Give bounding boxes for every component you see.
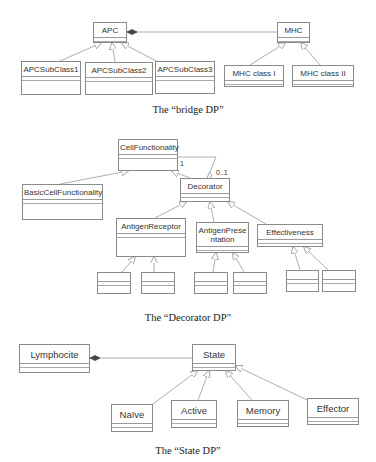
class-unnamed-1 <box>97 272 131 294</box>
class-name: APCSubClass1 <box>22 62 80 77</box>
class-name: State <box>193 345 235 364</box>
class-mhc-class-2: MHC class II <box>292 65 354 87</box>
class-antigen-presentation: AntigenPrese ntation <box>196 222 249 253</box>
uml-figure: APC MHC APCSubClass1 APCSubClass2 APCSub… <box>0 0 376 462</box>
class-name: Active <box>172 401 216 420</box>
caption-bridge: The “bridge DP” <box>0 104 376 115</box>
class-name: Naïve <box>112 405 152 424</box>
class-state: State <box>192 344 236 371</box>
class-apc-subclass-2: APCSubClass2 <box>85 62 153 95</box>
class-unnamed-2 <box>141 272 175 294</box>
class-effectiveness: Effectiveness <box>257 224 323 247</box>
class-name: Lymphocite <box>20 345 89 364</box>
class-name: Effectiveness <box>258 225 322 240</box>
class-mhc-class-1: MHC class I <box>224 65 284 87</box>
class-name: Memory <box>238 401 288 420</box>
class-name: AntigenReceptor <box>117 219 185 234</box>
multiplicity-decorator-end: 0..1 <box>216 169 228 176</box>
class-active: Active <box>171 400 217 428</box>
class-unnamed-3 <box>194 272 228 294</box>
class-mhc: MHC <box>277 22 310 43</box>
class-name: AntigenPrese ntation <box>197 223 248 247</box>
class-naive: Naïve <box>111 404 153 432</box>
class-decorator: Decorator <box>180 178 230 202</box>
caption-state: The “State DP” <box>0 445 376 456</box>
class-apc-subclass-3: APCSubClass3 <box>155 61 215 94</box>
class-apc-subclass-1: APCSubClass1 <box>21 61 81 95</box>
class-memory: Memory <box>237 400 289 427</box>
caption-decorator: The “Decorator DP” <box>0 312 376 323</box>
multiplicity-cell-end: 1 <box>180 160 184 167</box>
class-unnamed-4 <box>233 272 267 294</box>
class-effector: Effector <box>307 398 359 425</box>
class-apc: APC <box>93 22 127 43</box>
class-name: CellFunctionality <box>119 140 177 155</box>
class-name: BasicCellFunctionality <box>23 185 102 200</box>
class-name: APCSubClass3 <box>156 62 214 77</box>
class-name: APC <box>94 23 126 38</box>
class-name: MHC class I <box>225 66 283 81</box>
class-name: MHC class II <box>293 66 353 81</box>
class-name: Decorator <box>181 179 229 194</box>
class-unnamed-5 <box>286 270 319 292</box>
class-cell-functionality: CellFunctionality <box>118 139 178 171</box>
class-unnamed-6 <box>322 270 356 292</box>
class-antigen-receptor: AntigenReceptor <box>116 218 186 257</box>
class-lymphocite: Lymphocite <box>19 344 90 373</box>
class-name: Effector <box>308 399 358 418</box>
class-name: MHC <box>278 23 309 38</box>
class-name: APCSubClass2 <box>86 63 152 78</box>
class-basic-cell-functionality: BasicCellFunctionality <box>22 184 103 220</box>
